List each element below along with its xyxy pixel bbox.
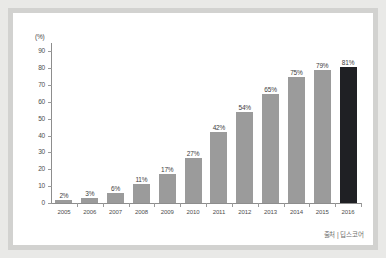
bar-value-label: 81% <box>333 59 363 66</box>
y-axis-tick-mark <box>48 169 52 170</box>
x-axis-tick-mark <box>335 203 336 207</box>
x-axis-tick-mark <box>361 203 362 207</box>
bar-value-label: 17% <box>152 166 182 173</box>
y-axis-tick-mark <box>48 119 52 120</box>
bar-column[interactable]: 65% <box>262 43 279 203</box>
bar-value-label: 27% <box>178 150 208 157</box>
bar[interactable] <box>133 184 150 203</box>
y-axis-tick-label: 20 <box>19 165 45 172</box>
chart-card: (%) 0102030405060708090 2%3%6%11%17%27%4… <box>13 13 373 245</box>
y-axis-tick-mark <box>48 186 52 187</box>
y-axis-tick-label: 50 <box>19 115 45 122</box>
screenshot-root: (%) 0102030405060708090 2%3%6%11%17%27%4… <box>0 0 386 258</box>
y-axis-line <box>51 43 52 203</box>
y-axis-tick-mark <box>48 102 52 103</box>
bar[interactable] <box>55 200 72 203</box>
x-axis-tick-mark <box>180 203 181 207</box>
bar[interactable] <box>236 112 253 203</box>
bar-column[interactable]: 42% <box>210 43 227 203</box>
x-axis-tick-mark <box>258 203 259 207</box>
y-axis-tick-mark <box>48 203 52 204</box>
bar[interactable] <box>185 158 202 203</box>
bar-column[interactable]: 3% <box>81 43 98 203</box>
bar-column[interactable]: 6% <box>107 43 124 203</box>
bar-column[interactable]: 81% <box>340 43 357 203</box>
bar-column[interactable]: 79% <box>314 43 331 203</box>
bar-value-label: 6% <box>101 185 131 192</box>
y-axis-tick-mark <box>48 152 52 153</box>
x-axis-tick-mark <box>154 203 155 207</box>
x-axis-tick-label: 2016 <box>333 209 363 215</box>
y-axis-tick-label: 60 <box>19 98 45 105</box>
y-axis-tick-label: 40 <box>19 132 45 139</box>
bar[interactable] <box>340 67 357 203</box>
x-axis-tick-mark <box>284 203 285 207</box>
bar[interactable] <box>107 193 124 203</box>
bar-value-label: 11% <box>126 176 156 183</box>
bar[interactable] <box>262 94 279 203</box>
x-axis-tick-mark <box>232 203 233 207</box>
bar-value-label: 75% <box>281 69 311 76</box>
y-axis-tick-label: 0 <box>19 199 45 206</box>
y-axis-tick-label: 90 <box>19 47 45 54</box>
y-axis-tick-label: 80 <box>19 64 45 71</box>
x-axis-tick-mark <box>129 203 130 207</box>
chart-frame: (%) 0102030405060708090 2%3%6%11%17%27%4… <box>8 8 378 250</box>
bar-value-label: 65% <box>256 86 286 93</box>
bar-column[interactable]: 17% <box>159 43 176 203</box>
bar-column[interactable]: 27% <box>185 43 202 203</box>
bar-column[interactable]: 2% <box>55 43 72 203</box>
y-axis-tick-mark <box>48 85 52 86</box>
source-note: 출처 | 딥스코어 <box>324 229 364 239</box>
bar[interactable] <box>210 132 227 203</box>
bar-chart: (%) 0102030405060708090 2%3%6%11%17%27%4… <box>13 13 373 245</box>
bar-column[interactable]: 11% <box>133 43 150 203</box>
bar-column[interactable]: 75% <box>288 43 305 203</box>
y-axis-tick-mark <box>48 136 52 137</box>
bar[interactable] <box>81 198 98 203</box>
bar-value-label: 54% <box>230 104 260 111</box>
y-axis-tick-mark <box>48 68 52 69</box>
bar[interactable] <box>314 70 331 203</box>
y-axis-tick-mark <box>48 51 52 52</box>
x-axis-tick-mark <box>206 203 207 207</box>
bar[interactable] <box>159 174 176 203</box>
bar[interactable] <box>288 77 305 203</box>
x-axis-tick-mark <box>309 203 310 207</box>
y-axis-tick-label: 10 <box>19 182 45 189</box>
bar-column[interactable]: 54% <box>236 43 253 203</box>
x-axis-tick-mark <box>103 203 104 207</box>
y-axis-unit-label: (%) <box>35 33 45 40</box>
y-axis-tick-label: 70 <box>19 81 45 88</box>
bar-value-label: 42% <box>204 124 234 131</box>
x-axis-tick-mark <box>77 203 78 207</box>
y-axis-tick-label: 30 <box>19 148 45 155</box>
